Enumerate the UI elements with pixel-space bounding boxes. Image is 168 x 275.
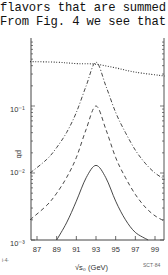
x-axis-label: √s₀ (GeV) <box>75 263 109 272</box>
x-tick-label: 91 <box>72 245 80 254</box>
x-tick-label: 87 <box>33 245 41 254</box>
cross-section-chart: 87899193959799 10⁻³ 10⁻² 10⁻¹ pb √s₀ (Ge… <box>0 0 168 275</box>
x-tick-label: 95 <box>111 245 119 254</box>
figure-code: SCT·84 <box>143 262 160 268</box>
y-tick-label-1: 10⁻² <box>10 168 25 177</box>
y-axis-ticks <box>31 42 164 240</box>
x-tick-label: 99 <box>151 245 159 254</box>
x-tick-label: 97 <box>131 245 139 254</box>
y-tick-label-0: 10⁻³ <box>10 239 25 248</box>
curve-dashed <box>30 106 165 221</box>
curve-dash-dot <box>30 62 165 179</box>
y-axis-label: pb <box>15 150 24 158</box>
plot-frame <box>31 38 164 240</box>
curve-dotted <box>30 62 165 76</box>
x-axis-ticks: 87899193959799 <box>33 236 159 254</box>
corner-mark-left: i·4· <box>2 257 10 263</box>
curves <box>30 62 165 240</box>
curve-solid <box>57 165 148 240</box>
y-tick-label-2: 10⁻¹ <box>10 105 25 114</box>
x-tick-label: 89 <box>52 245 60 254</box>
x-tick-label: 93 <box>92 245 100 254</box>
